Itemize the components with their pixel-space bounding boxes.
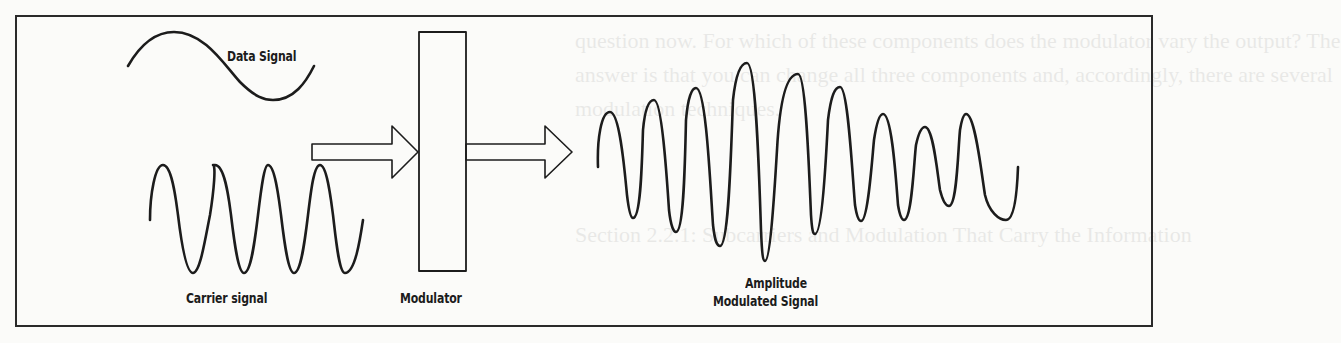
modulator-block — [419, 32, 466, 271]
am-signal-label-line2: Modulated Signal — [713, 293, 818, 309]
data-signal-label: Data Signal — [227, 48, 296, 64]
carrier-signal-wave — [150, 165, 363, 273]
data-signal-wave — [128, 32, 314, 100]
am-signal-wave — [598, 63, 1018, 261]
input-arrow — [312, 126, 418, 178]
am-signal-label-line1: Amplitude — [745, 275, 807, 291]
carrier-signal-label: Carrier signal — [186, 290, 267, 306]
output-arrow — [466, 126, 572, 178]
modulator-label: Modulator — [400, 290, 462, 306]
